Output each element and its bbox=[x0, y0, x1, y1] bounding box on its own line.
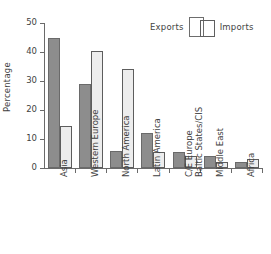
y-axis-tick-label: 20 bbox=[26, 104, 37, 115]
x-axis-label: Western Europe bbox=[91, 110, 101, 177]
bar-group bbox=[48, 23, 72, 168]
y-axis-tick: 50 bbox=[0, 23, 44, 24]
x-axis-label: Africa bbox=[247, 153, 257, 177]
x-axis-label: Asia bbox=[60, 159, 70, 177]
y-axis-tick: 40 bbox=[0, 52, 44, 53]
x-axis-label-line: Baltic States/CIS bbox=[194, 107, 204, 177]
y-axis-tick-mark bbox=[40, 52, 44, 53]
bar-group bbox=[235, 23, 259, 168]
x-axis-tick-mark bbox=[75, 169, 76, 173]
x-axis-label-line: North America bbox=[121, 115, 131, 177]
y-axis-tick-label: 10 bbox=[26, 133, 37, 144]
x-axis-label: C/E EuropeBaltic States/CIS bbox=[185, 107, 204, 177]
y-axis-tick-mark bbox=[40, 139, 44, 140]
x-axis-tick-mark bbox=[262, 169, 263, 173]
bar-exports bbox=[173, 152, 185, 168]
y-axis-tick-mark bbox=[40, 168, 44, 169]
x-axis-tick-mark bbox=[169, 169, 170, 173]
x-axis-tick-mark bbox=[231, 169, 232, 173]
x-axis-label-line: Western Europe bbox=[90, 110, 100, 177]
y-axis-tick-mark bbox=[40, 81, 44, 82]
x-axis-label: Latin America bbox=[153, 118, 163, 177]
y-axis-title: Percentage bbox=[2, 62, 12, 112]
y-axis-tick: 30 bbox=[0, 81, 44, 82]
x-axis-label-line: Africa bbox=[246, 153, 256, 177]
y-axis-tick: 0 bbox=[0, 168, 44, 169]
plot-area: 01020304050 AsiaWestern EuropeNorth Amer… bbox=[44, 23, 263, 169]
y-axis-tick-mark bbox=[40, 23, 44, 24]
y-axis-tick-label: 40 bbox=[26, 46, 37, 57]
y-axis-tick-label: 50 bbox=[26, 17, 37, 28]
x-axis-label-line: C/E Europe bbox=[184, 130, 194, 177]
y-axis-tick-mark bbox=[40, 110, 44, 111]
x-axis-label-line: Asia bbox=[59, 159, 69, 177]
x-axis-label: North America bbox=[122, 115, 132, 177]
y-axis-tick: 10 bbox=[0, 139, 44, 140]
bar-exports bbox=[204, 156, 216, 168]
y-axis-tick: 20 bbox=[0, 110, 44, 111]
x-axis-label-line: Middle East bbox=[215, 128, 225, 177]
y-axis-tick-label: 30 bbox=[26, 75, 37, 86]
y-axis-tick-label: 0 bbox=[32, 162, 37, 173]
x-axis-tick-mark bbox=[137, 169, 138, 173]
bar-exports bbox=[48, 38, 60, 169]
x-axis-label-line: Latin America bbox=[152, 118, 162, 177]
x-axis-label: Middle East bbox=[216, 128, 226, 177]
bar-chart: Exports Imports Percentage 01020304050 A… bbox=[0, 0, 271, 254]
x-axis-tick-mark bbox=[106, 169, 107, 173]
